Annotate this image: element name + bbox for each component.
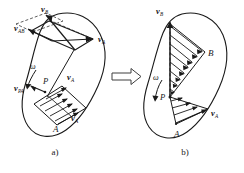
panel-a: vB vAB vA ω P vPA vA vA xyxy=(14,5,106,157)
label-point-a-b: A xyxy=(173,129,180,139)
label-omega-b: ω xyxy=(153,73,159,82)
velocity-arrows-lower-b xyxy=(171,98,198,116)
label-vb-b: vB xyxy=(156,7,164,17)
label-va-mid-a: vA xyxy=(67,73,75,83)
label-point-a-a: A xyxy=(52,124,59,134)
figure-canvas: vB vAB vA ω P vPA vA vA xyxy=(0,0,244,173)
label-point-p-b: P xyxy=(159,92,166,102)
caption-b: b) xyxy=(181,147,189,157)
panel-b: vB B ω P vA A b) xyxy=(144,7,227,157)
label-point-b-b: B xyxy=(208,48,214,58)
label-va-top-a: vA xyxy=(98,35,106,45)
label-va-b: vA xyxy=(211,109,219,119)
vector-va-top-a xyxy=(52,36,93,42)
label-omega-a: ω xyxy=(30,62,36,71)
vector-vpa-a xyxy=(30,86,45,92)
point-a-dot-b xyxy=(175,123,177,125)
vector-vb-a xyxy=(46,15,75,50)
caption-a: a) xyxy=(52,147,59,157)
label-vpa-a: vPA xyxy=(14,84,25,94)
label-vb-a: vB xyxy=(41,5,49,15)
implication-arrow xyxy=(112,69,141,85)
vector-vb-b xyxy=(167,22,174,98)
label-point-p-a: P xyxy=(42,76,49,86)
point-p-dot-b xyxy=(169,96,172,99)
kinematics-figure: vB vAB vA ω P vPA vA vA xyxy=(0,0,244,173)
